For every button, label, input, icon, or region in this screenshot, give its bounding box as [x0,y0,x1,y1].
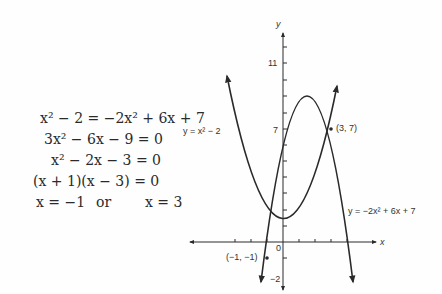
y-ticks [283,47,287,258]
curve1-label: y = x² − 2 [183,126,221,136]
figure: x² − 2 = −2x² + 6x + 7 3x² − 6x − 9 = 0 … [0,0,442,294]
y-axis-label: y [275,19,281,29]
tick-label-minus-2: −2 [270,274,280,284]
intersection-point-2 [329,127,333,131]
curve-x-squared-minus-2 [227,76,337,219]
point2-label: (3, 7) [336,123,357,133]
tick-label-11: 11 [268,58,277,68]
origin-label: 0 [276,243,281,253]
graph: y x 11 7 −2 0 y = x² − 2 y = −2x² + 6x +… [0,0,442,294]
intersection-point-1 [265,256,269,260]
curve2-label: y = −2x² + 6x + 7 [348,206,416,216]
point1-label: (−1, −1) [226,252,258,262]
tick-label-7: 7 [273,125,278,135]
x-axis-label: x [379,237,385,247]
